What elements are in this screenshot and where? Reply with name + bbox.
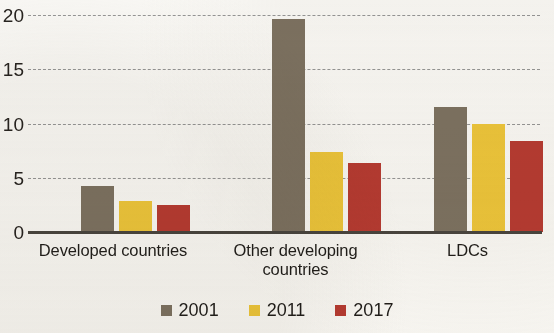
legend-label: 2001 [179,301,219,319]
legend-item-2011[interactable]: 2011 [249,301,306,319]
category-label-line: countries [213,260,378,279]
y-tick-label-5: 5 [0,169,24,188]
bar-2011-developed-countries [119,201,152,232]
bar-chart: 20 15 10 5 0 Developed countries Other d… [0,0,554,333]
category-label-line: Developed countries [28,241,198,260]
legend-swatch-icon [161,305,172,316]
bar-2001-ldcs [434,107,467,232]
category-label-line: Other developing [213,241,378,260]
category-label-developed-countries: Developed countries [28,241,198,260]
category-label-line: LDCs [395,241,540,260]
y-tick-label-20: 20 [0,6,24,25]
y-tick-label-0: 0 [0,223,24,242]
y-tick-label-10: 10 [0,115,24,134]
legend-swatch-icon [335,305,346,316]
legend: 2001 2011 2017 [0,301,554,319]
legend-item-2001[interactable]: 2001 [161,301,219,319]
legend-label: 2011 [267,301,306,319]
legend-label: 2017 [353,301,393,319]
bar-2001-other-developing-countries [272,19,305,232]
legend-swatch-icon [249,305,260,316]
bar-2017-developed-countries [157,205,190,232]
bar-2011-other-developing-countries [310,152,343,232]
legend-item-2017[interactable]: 2017 [335,301,393,319]
bar-2011-ldcs [472,124,505,233]
bar-2001-developed-countries [81,186,114,232]
category-label-other-developing-countries: Other developing countries [213,241,378,280]
x-axis-line [28,231,542,234]
gridline-20 [28,15,540,16]
category-label-ldcs: LDCs [395,241,540,260]
bar-2017-ldcs [510,141,543,232]
y-tick-label-15: 15 [0,60,24,79]
bar-2017-other-developing-countries [348,163,381,232]
plot-area [28,15,540,232]
